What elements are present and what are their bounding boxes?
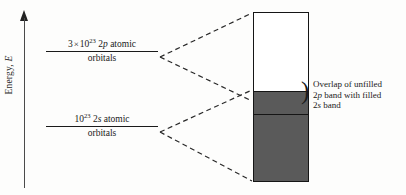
overlap-line-2-suffix: band with filled xyxy=(322,90,381,100)
level-2s-exponent: 23 xyxy=(84,112,91,119)
overlap-annotation-line-2: 2p band with filled xyxy=(313,90,405,101)
level-2p-orbital-letter: p xyxy=(103,39,108,49)
connector-2p-to-overlap-bottom xyxy=(160,57,252,101)
energy-axis-label: Energy, E xyxy=(4,27,14,123)
energy-axis-label-prefix: Energy, xyxy=(4,62,14,95)
level-2p-mantissa: 10 xyxy=(80,39,90,49)
energy-axis xyxy=(18,8,32,188)
unfilled-2p-band xyxy=(254,13,308,91)
level-2s-atomic-orbitals: 1023 2s atomic orbitals xyxy=(46,114,158,139)
brace-icon: ) xyxy=(301,79,309,102)
energy-axis-line xyxy=(24,18,25,188)
level-2s-descriptor: atomic xyxy=(104,114,130,124)
level-2s-orbital-letter: s xyxy=(98,114,102,124)
level-2s-label: 1023 2s atomic xyxy=(46,114,158,126)
multiplication-sign-icon: × xyxy=(73,39,80,49)
overlap-annotation-line-3: 2s band xyxy=(313,100,405,111)
overlap-annotation: ) Overlap of unfilled 2p band with fille… xyxy=(313,79,405,111)
connector-2p-to-band-top xyxy=(160,13,252,57)
overlap-annotation-line-1: Overlap of unfilled xyxy=(313,79,405,90)
level-2p-label: 3×1023 2p atomic xyxy=(46,39,158,51)
level-2p-descriptor: atomic xyxy=(110,39,136,49)
band-overlap-figure: Energy, E 3×1023 2p atomic orbitals 1023… xyxy=(0,0,406,195)
level-2p-atomic-orbitals: 3×1023 2p atomic orbitals xyxy=(46,39,158,64)
energy-axis-label-symbol: E xyxy=(4,56,14,62)
overlap-band xyxy=(254,91,308,115)
level-2s-mantissa: 10 xyxy=(74,114,84,124)
overlap-annotation-text: Overlap of unfilled 2p band with filled … xyxy=(313,79,405,111)
level-2s-second-line: orbitals xyxy=(46,128,158,140)
level-2p-second-line: orbitals xyxy=(46,53,158,65)
connector-2s-to-band-bottom xyxy=(160,132,252,181)
level-2p-exponent: 23 xyxy=(89,37,96,44)
connector-2s-to-overlap-top xyxy=(160,90,252,132)
filled-2s-band xyxy=(254,115,308,181)
overlap-line-3-suffix: band xyxy=(321,100,341,110)
